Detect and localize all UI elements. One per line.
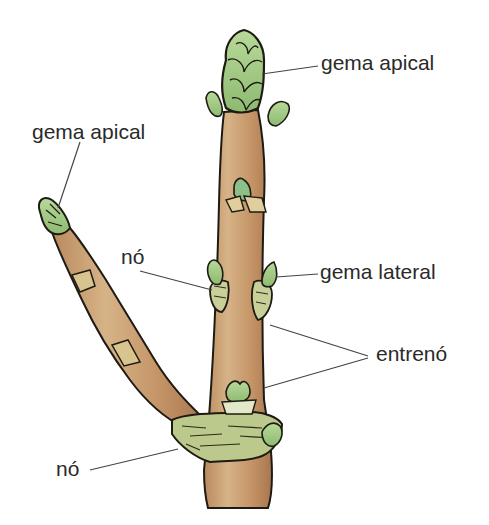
stem-diagram: gema apical gema apical nó gema lateral … — [0, 0, 489, 525]
side-branch — [39, 198, 205, 428]
leader-entreno-lower — [264, 358, 368, 388]
label-entreno: entrenó — [376, 343, 447, 364]
label-gema-lateral: gema lateral — [320, 261, 436, 282]
side-apical-bud-icon — [39, 198, 70, 234]
leader-gema-apical-side — [58, 142, 80, 208]
leader-entreno-upper — [270, 325, 368, 356]
leader-gema-lateral — [276, 274, 318, 277]
main-apical-bud-icon — [206, 30, 289, 126]
label-gema-apical-side: gema apical — [32, 121, 145, 142]
leader-no-lower — [90, 449, 178, 470]
leader-no-upper — [140, 271, 212, 290]
lateral-bud-right-icon — [262, 262, 277, 287]
leader-gema-apical-main — [262, 66, 318, 74]
label-no-upper: nó — [121, 246, 144, 267]
label-gema-apical-main: gema apical — [321, 52, 434, 73]
label-no-lower: nó — [56, 458, 79, 479]
